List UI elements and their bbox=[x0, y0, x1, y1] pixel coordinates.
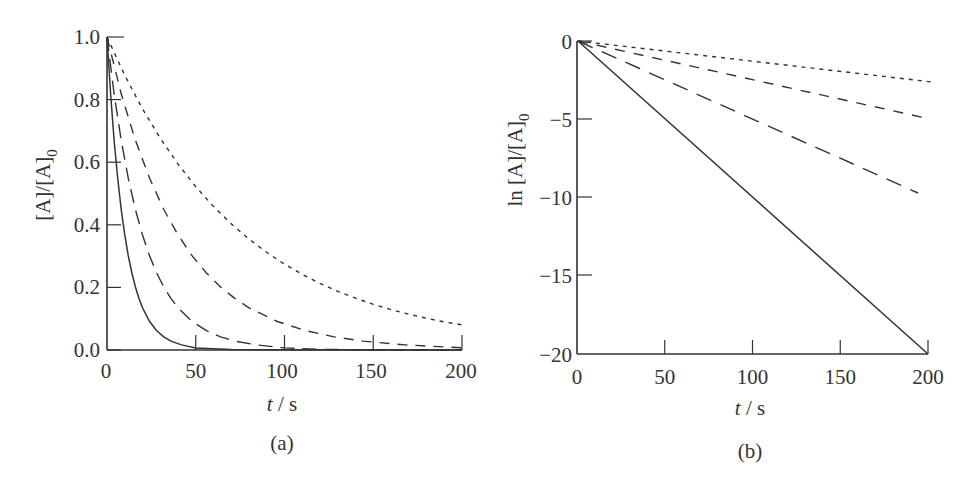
chart-b-x-axis-label: t / s bbox=[735, 396, 765, 420]
chart-b-ytick-label: −15 bbox=[539, 264, 572, 288]
chart-b: 0 −5 −10 −15 −20 0 50 100 150 200 t / s … bbox=[503, 30, 944, 463]
chart-a-series-k0.05-long-dash bbox=[107, 37, 462, 350]
chart-b-series bbox=[578, 41, 932, 354]
chart-a-x-ticks bbox=[196, 335, 462, 350]
chart-b-x-ticks bbox=[665, 340, 928, 354]
chart-a-series-k0.025-dash bbox=[107, 37, 462, 348]
chart-b-ytick-label: 0 bbox=[562, 30, 573, 54]
chart-b-caption: (b) bbox=[738, 439, 763, 463]
chart-b-xtick-label: 200 bbox=[912, 365, 944, 389]
chart-a-x-axis-label: t / s bbox=[267, 392, 297, 416]
chart-a-series-k0.1-solid bbox=[107, 37, 462, 350]
chart-a-ytick-label: 1.0 bbox=[74, 25, 100, 49]
chart-b-y-ticks bbox=[577, 41, 592, 275]
chart-a-xtick-label: 0 bbox=[101, 359, 112, 383]
chart-a-ytick-label: 0.8 bbox=[74, 88, 100, 112]
chart-b-series-k0.05-long-dash bbox=[578, 41, 918, 193]
chart-a-y-axis-label: [A]/[A]0 bbox=[31, 149, 60, 221]
chart-a-caption: (a) bbox=[270, 431, 293, 455]
chart-b-ytick-label: −20 bbox=[539, 343, 572, 367]
chart-b-series-k0.025-dash bbox=[578, 41, 930, 119]
chart-a-ytick-label: 0.4 bbox=[74, 213, 101, 237]
chart-b-ytick-label: −5 bbox=[550, 108, 572, 132]
chart-a-xtick-label: 100 bbox=[266, 359, 298, 383]
chart-b-series-k0.0125-dotted bbox=[578, 41, 932, 82]
chart-a-ytick-label: 0.6 bbox=[74, 150, 100, 174]
chart-a-ytick-label: 0.0 bbox=[74, 338, 100, 362]
chart-b-xtick-label: 0 bbox=[572, 365, 583, 389]
chart-a-ytick-label: 0.2 bbox=[74, 275, 100, 299]
chart-b-series-k0.1-solid bbox=[578, 41, 928, 354]
chart-b-xtick-label: 50 bbox=[654, 365, 675, 389]
chart-b-xtick-label: 100 bbox=[737, 365, 769, 389]
chart-a-xtick-label: 200 bbox=[445, 359, 477, 383]
chart-b-xtick-label: 150 bbox=[825, 365, 857, 389]
chart-a-xtick-label: 150 bbox=[355, 359, 387, 383]
chart-a-series-k0.0125-dotted bbox=[107, 37, 462, 325]
chart-b-ytick-label: −10 bbox=[539, 186, 572, 210]
chart-a-series bbox=[107, 37, 462, 350]
chart-b-y-axis-label: ln [A]/[A]0 bbox=[503, 113, 532, 206]
chart-a-xtick-label: 50 bbox=[185, 359, 206, 383]
chart-a: 0.0 0.2 0.4 0.6 0.8 1.0 0 50 100 150 200… bbox=[31, 25, 477, 455]
